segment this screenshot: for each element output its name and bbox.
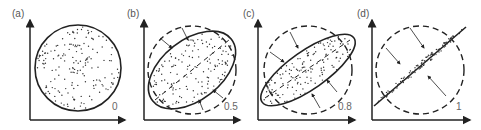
scatter-dots — [37, 26, 120, 109]
scatter-boundary-circle — [35, 25, 121, 111]
panel-a-correlation-value: 0 — [112, 101, 118, 112]
panel-b-correlation-value: 0.5 — [224, 101, 238, 112]
panel-a — [30, 20, 125, 120]
panel-a-label: (a) — [12, 8, 24, 19]
correlation-diagram — [0, 0, 481, 130]
panel-c-label: (c) — [243, 8, 255, 19]
panel-d-correlation-value: 1 — [456, 101, 462, 112]
panel-d-label: (d) — [357, 8, 369, 19]
panel-c-correlation-value: 0.8 — [338, 101, 352, 112]
regression-dashed-line — [155, 40, 229, 100]
panel-b-label: (b) — [127, 8, 139, 19]
